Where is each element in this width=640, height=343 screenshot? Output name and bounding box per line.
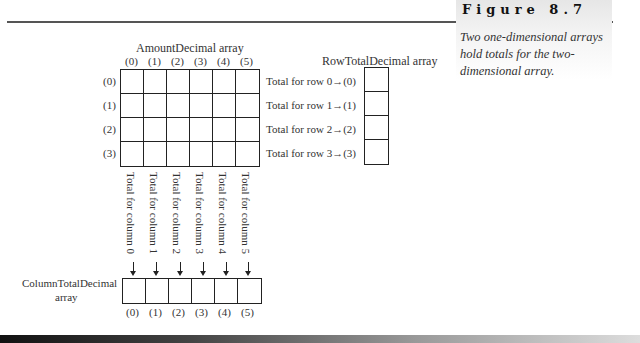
array-cell (146, 279, 169, 303)
column-total-array-title: ColumnTotalDecimal (22, 277, 117, 289)
down-arrow-icon (248, 262, 249, 272)
grid-cell (167, 94, 190, 118)
array-cell (123, 279, 146, 303)
column-total-array-title-2: array (55, 291, 78, 303)
grid-cell (213, 70, 236, 94)
right-arrow-icon: → (332, 123, 343, 135)
right-arrow-icon: → (332, 147, 343, 159)
array-cell (365, 116, 388, 140)
column-total-label-2: Total for column 2 (171, 172, 183, 254)
main-row-index-2: (2) (103, 123, 116, 135)
grid-cell (190, 94, 213, 118)
amount-decimal-grid (120, 69, 260, 167)
grid-cell (144, 118, 167, 142)
row-total-text: Total for row 3 (266, 147, 332, 159)
array-cell (215, 279, 238, 303)
column-total-decimal-array (122, 278, 262, 304)
row-total-text: Total for row 0 (266, 75, 332, 87)
row-total-label-1: Total for row 1→(1) (266, 99, 356, 111)
grid-cell (121, 94, 144, 118)
down-arrow-icon (180, 262, 181, 272)
figure-title: Figure 8.7 (462, 2, 587, 17)
row-total-index: (0) (343, 75, 356, 87)
grid-cell (213, 94, 236, 118)
column-total-label-4: Total for column 4 (217, 172, 229, 254)
grid-cell (144, 70, 167, 94)
down-arrow-icon (226, 262, 227, 272)
array-cell (238, 279, 261, 303)
row-total-label-2: Total for row 2→(2) (266, 123, 356, 135)
main-row-index-0: (0) (103, 75, 116, 87)
grid-cell (190, 118, 213, 142)
col-total-index-4: (4) (218, 306, 231, 318)
grid-cell (190, 142, 213, 166)
col-total-index-0: (0) (126, 306, 139, 318)
array-cell (192, 279, 215, 303)
row-total-index: (1) (343, 99, 356, 111)
grid-cell (144, 94, 167, 118)
col-total-index-1: (1) (149, 306, 162, 318)
grid-cell (167, 118, 190, 142)
row-total-label-0: Total for row 0→(0) (266, 75, 356, 87)
row-total-label-3: Total for row 3→(3) (266, 147, 356, 159)
col-total-index-5: (5) (241, 306, 254, 318)
main-col-index-4: (4) (217, 55, 230, 67)
col-total-index-3: (3) (195, 306, 208, 318)
col-total-index-2: (2) (172, 306, 185, 318)
row-total-decimal-array (364, 67, 389, 165)
grid-cell (236, 142, 259, 166)
right-arrow-icon: → (332, 99, 343, 111)
main-row-index-3: (3) (103, 147, 116, 159)
column-total-label-5: Total for column 5 (240, 172, 252, 254)
right-arrow-icon: → (332, 75, 343, 87)
array-cell (365, 140, 388, 164)
main-col-index-1: (1) (148, 55, 161, 67)
grid-cell (121, 118, 144, 142)
grid-cell (121, 70, 144, 94)
column-total-label-1: Total for column 1 (148, 172, 160, 254)
grid-cell (213, 142, 236, 166)
grid-cell (167, 70, 190, 94)
figure-caption: Two one-dimensional arrays hold totals f… (460, 29, 610, 80)
grid-cell (213, 118, 236, 142)
main-array-title: AmountDecimal array (136, 41, 244, 56)
main-col-index-3: (3) (194, 55, 207, 67)
grid-cell (121, 142, 144, 166)
row-total-index: (3) (343, 147, 356, 159)
grid-cell (236, 94, 259, 118)
row-total-text: Total for row 1 (266, 99, 332, 111)
main-col-index-5: (5) (240, 55, 253, 67)
array-cell (365, 92, 388, 116)
down-arrow-icon (156, 262, 157, 272)
main-row-index-1: (1) (103, 99, 116, 111)
grid-cell (236, 70, 259, 94)
down-arrow-icon (133, 262, 134, 272)
array-cell (169, 279, 192, 303)
main-col-index-2: (2) (171, 55, 184, 67)
column-total-label-3: Total for column 3 (194, 172, 206, 254)
grid-cell (167, 142, 190, 166)
row-total-index: (2) (343, 123, 356, 135)
down-arrow-icon (203, 262, 204, 272)
bottom-bar (0, 335, 640, 343)
main-col-index-0: (0) (125, 55, 138, 67)
row-total-text: Total for row 2 (266, 123, 332, 135)
grid-cell (190, 70, 213, 94)
array-cell (365, 68, 388, 92)
column-total-label-0: Total for column 0 (125, 172, 137, 254)
grid-cell (144, 142, 167, 166)
grid-cell (236, 118, 259, 142)
